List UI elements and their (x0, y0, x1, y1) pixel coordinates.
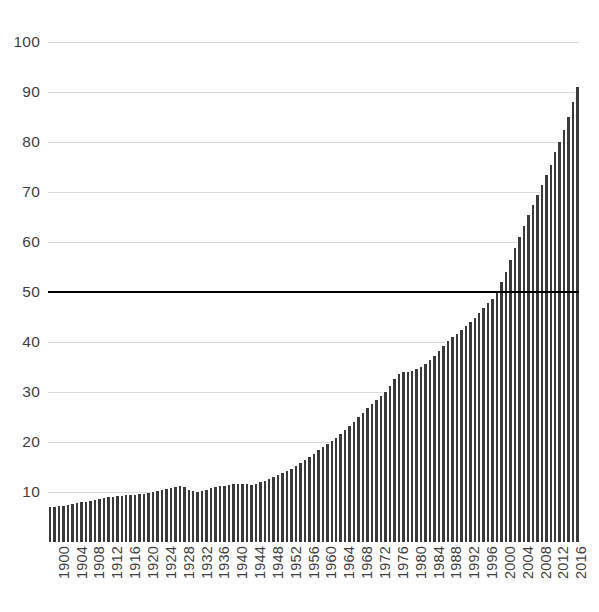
x-tick-label: 1912 (109, 546, 125, 579)
x-tick-label: 1936 (216, 546, 232, 579)
y-tick-label: 60 (22, 233, 40, 251)
x-tick-label: 1996 (484, 546, 500, 579)
x-tick-label: 1924 (163, 546, 179, 579)
x-tick-label: 1940 (234, 546, 250, 579)
plot-area (48, 42, 579, 542)
x-tick-label: 1968 (359, 546, 375, 579)
y-tick-label: 10 (22, 483, 40, 501)
x-tick-label: 1944 (252, 546, 268, 579)
bar-chart: 100908070605040302010 190019041908191219… (0, 0, 599, 612)
x-tick-label: 1904 (74, 546, 90, 579)
x-tick-label: 1960 (323, 546, 339, 579)
x-tick-label: 2012 (555, 546, 571, 579)
x-tick-label: 1948 (270, 546, 286, 579)
x-tick-label: 1972 (377, 546, 393, 579)
x-tick-label: 1952 (288, 546, 304, 579)
x-tick-label: 2004 (520, 546, 536, 579)
x-tick-label: 1916 (127, 546, 143, 579)
x-tick-label: 1992 (466, 546, 482, 579)
x-axis: 1900190419081912191619201924192819321936… (48, 542, 579, 612)
x-tick-label: 1920 (145, 546, 161, 579)
threshold-line (48, 291, 579, 294)
y-tick-label: 100 (14, 33, 40, 51)
y-tick-label: 30 (22, 383, 40, 401)
x-tick-label: 1976 (395, 546, 411, 579)
y-tick-label: 70 (22, 183, 40, 201)
y-tick-label: 50 (22, 283, 40, 301)
x-tick-label: 1964 (341, 546, 357, 579)
x-tick-label: 1988 (448, 546, 464, 579)
x-tick-label: 1980 (413, 546, 429, 579)
x-tick-label: 2000 (502, 546, 518, 579)
x-tick-label: 1908 (91, 546, 107, 579)
y-tick-label: 80 (22, 133, 40, 151)
bar (575, 87, 579, 542)
y-tick-label: 20 (22, 433, 40, 451)
x-tick-label: 2016 (573, 546, 589, 579)
x-tick-label: 1928 (181, 546, 197, 579)
x-tick-label: 1956 (306, 546, 322, 579)
x-tick-label: 1900 (56, 546, 72, 579)
y-tick-label: 40 (22, 333, 40, 351)
x-tick-label: 1984 (431, 546, 447, 579)
y-axis: 100908070605040302010 (0, 0, 48, 612)
x-tick-label: 1932 (199, 546, 215, 579)
y-tick-label: 90 (22, 83, 40, 101)
x-tick-label: 2008 (538, 546, 554, 579)
